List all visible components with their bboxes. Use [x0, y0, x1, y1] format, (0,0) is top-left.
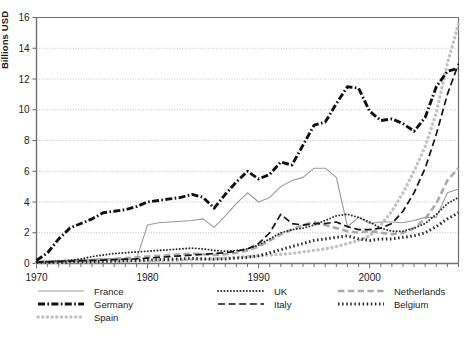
axis-ticks — [33, 18, 459, 269]
x-tick-label: 1990 — [247, 272, 270, 283]
legend-label-netherlands: Netherlands — [394, 286, 445, 297]
y-tick-label: 10 — [18, 104, 30, 115]
y-tick-label: 14 — [18, 43, 30, 54]
legend-item-spain[interactable]: Spain — [38, 312, 118, 323]
y-tick-label: 6 — [24, 166, 30, 177]
y-tick-label: 12 — [18, 74, 30, 85]
y-tick-label: 16 — [18, 12, 30, 23]
series-line-germany — [37, 68, 459, 260]
series-line-france — [37, 168, 459, 261]
legend-label-germany: Germany — [94, 299, 133, 310]
series-line-netherlands — [37, 168, 459, 262]
legend-item-france[interactable]: France — [38, 286, 124, 297]
legend-item-belgium[interactable]: Belgium — [338, 299, 428, 310]
legend-item-italy[interactable]: Italy — [218, 299, 292, 310]
legend-label-uk: UK — [274, 286, 288, 297]
x-tick-label: 1980 — [136, 272, 159, 283]
legend-item-netherlands[interactable]: Netherlands — [338, 286, 445, 297]
chart-figure: Billions USD 0246810121416 1970198019902… — [0, 0, 472, 338]
y-tick-label: 0 — [24, 258, 30, 269]
y-axis-tick-labels: 0246810121416 — [18, 12, 30, 269]
chart-legend: FranceUKNetherlandsGermanyItalyBelgiumSp… — [38, 286, 445, 323]
legend-label-belgium: Belgium — [394, 299, 428, 310]
x-tick-label: 1970 — [25, 272, 48, 283]
y-tick-label: 8 — [24, 135, 30, 146]
y-tick-label: 2 — [24, 227, 30, 238]
gridlines — [37, 18, 459, 233]
x-axis-tick-labels: 1970198019902000 — [25, 272, 381, 283]
line-chart-canvas: 0246810121416 1970198019902000 FranceUKN… — [0, 0, 472, 338]
data-series — [37, 24, 459, 263]
legend-label-france: France — [94, 286, 124, 297]
legend-label-spain: Spain — [94, 312, 118, 323]
legend-label-italy: Italy — [274, 299, 292, 310]
x-tick-label: 2000 — [359, 272, 382, 283]
series-line-spain — [37, 24, 459, 263]
legend-item-germany[interactable]: Germany — [38, 299, 133, 310]
legend-item-uk[interactable]: UK — [218, 286, 288, 297]
y-tick-label: 4 — [24, 197, 30, 208]
series-line-uk — [37, 197, 459, 262]
